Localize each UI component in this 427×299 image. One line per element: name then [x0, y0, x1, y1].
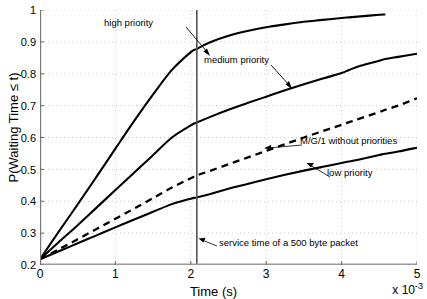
y-tick-label: 0.7	[21, 101, 36, 112]
chart-figure: 0.2 0.3 0.4 0.5 0.6 0.7 0.8 0.9 1 0 1 2 …	[0, 0, 427, 299]
annotation-mg1: M/G/1 without priorities	[300, 136, 397, 146]
x-axis-exponent: x 10-3	[392, 281, 423, 297]
exponent-base: x 10	[392, 283, 415, 297]
annotation-service-time: service time of a 500 byte packet	[219, 238, 358, 248]
x-tick-label: 1	[112, 268, 119, 280]
y-tick-label: 0.4	[21, 196, 36, 207]
arrow-medium-priority	[271, 65, 290, 86]
annotation-low-priority: low priority	[327, 168, 372, 178]
y-axis-label: P(Waiting Time ≤ t)	[6, 43, 21, 213]
y-tick-label: 1	[30, 5, 36, 16]
x-tick-label: 5	[414, 268, 421, 280]
y-tick-label: 0.5	[21, 165, 36, 176]
x-tick-label: 3	[263, 268, 270, 280]
y-tick-label: 0.2	[21, 260, 36, 271]
annotation-medium-priority: medium priority	[204, 55, 269, 65]
y-tick-label: 0.3	[21, 228, 36, 239]
exponent-power: -3	[415, 281, 423, 291]
x-tick-label: 2	[187, 268, 194, 280]
x-tick-label: 0	[37, 268, 44, 280]
x-axis-label: Time (s)	[0, 284, 427, 299]
arrow-head-service-time	[199, 238, 206, 243]
x-tick-label: 4	[338, 268, 345, 280]
y-tick-label: 0.6	[21, 133, 36, 144]
annotation-high-priority: high priority	[104, 18, 153, 28]
y-tick-label: 0.8	[21, 69, 36, 80]
arrow-mg1	[268, 145, 302, 148]
y-tick-label: 0.9	[21, 37, 36, 48]
arrow-service-time	[202, 240, 217, 246]
